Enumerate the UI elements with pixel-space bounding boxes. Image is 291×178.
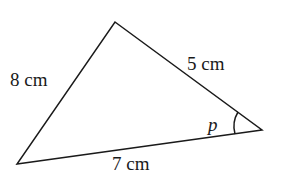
side-label-right: 5 cm [187, 53, 225, 74]
triangle-figure: 8 cm 5 cm 7 cm p [0, 0, 291, 178]
angle-arc-p [234, 112, 238, 134]
triangle-shape [17, 22, 262, 164]
triangle-diagram: 8 cm 5 cm 7 cm p [0, 0, 291, 178]
side-label-left: 8 cm [10, 69, 48, 90]
side-label-bottom: 7 cm [112, 153, 150, 174]
angle-label-p: p [206, 114, 218, 135]
